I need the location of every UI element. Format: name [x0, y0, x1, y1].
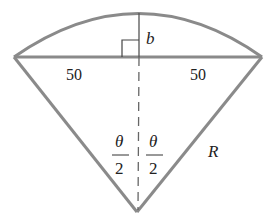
label-2-left: 2 [115, 159, 124, 178]
label-theta-left: θ [115, 132, 123, 151]
label-2-right: 2 [149, 159, 158, 178]
label-R: R [207, 142, 219, 161]
right-angle-mark [122, 40, 139, 57]
label-50-left: 50 [66, 66, 82, 83]
bisector-dashed [138, 57, 139, 210]
circular-sector-diagram: b 50 50 θ 2 θ 2 R [0, 0, 265, 217]
label-theta-right: θ [149, 132, 157, 151]
label-b: b [146, 29, 155, 48]
label-50-right: 50 [190, 66, 206, 83]
arc [14, 14, 262, 58]
